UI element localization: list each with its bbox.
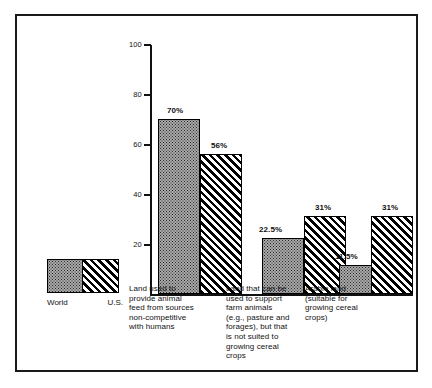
chart-legend: World U.S. xyxy=(47,259,123,307)
legend-swatch-us xyxy=(83,260,118,292)
y-axis-line xyxy=(150,45,152,296)
bar-label-us-1: 31% xyxy=(315,203,331,212)
category-0-line-4: with humans xyxy=(129,322,221,332)
category-label-land-used-animal-feed: Land used to provide animal feed from so… xyxy=(129,284,221,332)
category-2-line-0: Arable land xyxy=(305,284,397,294)
bar-label-us-0: 56% xyxy=(211,141,227,150)
category-1-line-5: is not suited to xyxy=(226,332,318,342)
bar-label-world-2: 11.5% xyxy=(335,252,358,261)
y-tick-label-20: 20 xyxy=(122,241,142,249)
bar-label-world-1: 22.5% xyxy=(259,225,282,234)
category-label-arable-land: Arable land (suitable for growing cereal… xyxy=(305,284,397,322)
y-axis-tick-labels: 100 80 60 40 20 xyxy=(123,42,142,296)
category-2-line-3: crops) xyxy=(305,313,397,323)
y-tick-label-40: 40 xyxy=(122,191,142,199)
y-tick-label-100: 100 xyxy=(122,41,142,49)
category-0-line-3: non-competitive xyxy=(129,313,221,323)
category-0-line-2: feed from sources xyxy=(129,303,221,313)
bar-label-world-0: 70% xyxy=(167,106,183,115)
bar-world-land-used-animal-feed xyxy=(158,119,200,294)
legend-swatch-world xyxy=(48,260,83,292)
category-2-line-2: growing cereal xyxy=(305,303,397,313)
legend-swatch-group xyxy=(47,259,119,293)
category-0-line-1: provide animal xyxy=(129,294,221,304)
legend-label-us: U.S. xyxy=(107,298,123,307)
chart-figure: World U.S. 100 80 60 40 20 70% xyxy=(0,0,432,388)
category-1-line-7: crops xyxy=(226,351,318,361)
legend-label-group: World U.S. xyxy=(47,298,123,307)
category-1-line-4: forages), but that xyxy=(226,322,318,332)
legend-label-world: World xyxy=(47,298,68,307)
category-1-line-6: growing cereal xyxy=(226,342,318,352)
category-0-line-0: Land used to xyxy=(129,284,221,294)
plot-area: 100 80 60 40 20 70% 56% 22.5% 31% xyxy=(123,42,413,296)
bar-us-land-used-animal-feed xyxy=(200,154,242,294)
bar-label-us-2: 31% xyxy=(382,203,398,212)
y-tick-label-80: 80 xyxy=(122,91,142,99)
figure-border: World U.S. 100 80 60 40 20 70% xyxy=(15,14,418,372)
category-2-line-1: (suitable for xyxy=(305,294,397,304)
y-tick-label-60: 60 xyxy=(122,141,142,149)
bar-us-arable-land xyxy=(371,216,413,294)
